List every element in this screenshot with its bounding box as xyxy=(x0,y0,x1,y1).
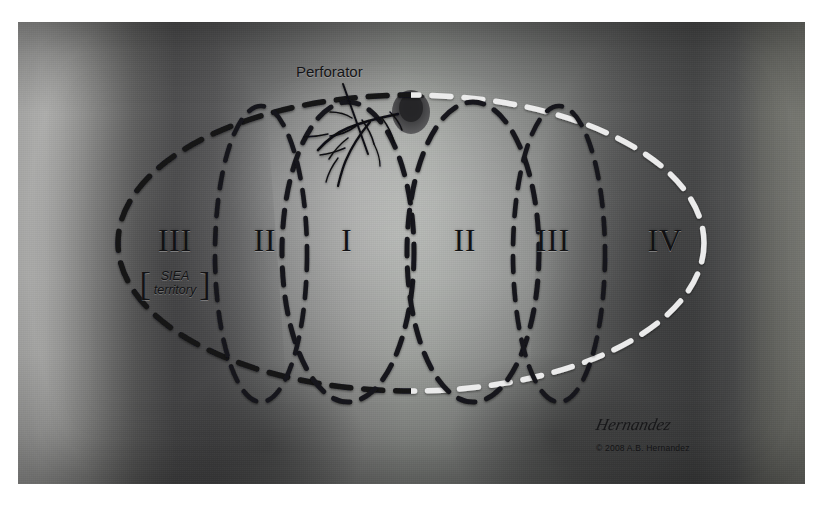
zone-label-1: I xyxy=(341,223,352,259)
zone-label-2-left: II xyxy=(254,223,277,259)
siea-territory-annotation: [ SIEA territory ] xyxy=(139,270,210,297)
zone-label-3-right: III xyxy=(536,223,570,259)
bracket-left-icon: [ xyxy=(139,271,150,297)
abdomen-photograph: III II I II III IV Perforator [ SIEA ter… xyxy=(18,22,805,484)
figure-root: III II I II III IV Perforator [ SIEA ter… xyxy=(0,0,823,515)
siea-line-1: SIEA xyxy=(161,269,190,283)
perforator-label: Perforator xyxy=(296,63,363,80)
siea-line-2: territory xyxy=(154,283,196,297)
artist-signature: Hernandez xyxy=(594,415,673,435)
annotation-overlay xyxy=(18,22,805,484)
copyright-notice: © 2008 A.B. Hernandez xyxy=(596,443,690,453)
siea-territory-text: SIEA territory xyxy=(154,270,196,297)
zone-label-3-left: III xyxy=(158,223,192,259)
bracket-right-icon: ] xyxy=(199,271,210,297)
perforator-vessels xyxy=(304,112,402,186)
zone-label-2-right: II xyxy=(454,223,477,259)
zone-label-4-right: IV xyxy=(648,223,683,259)
